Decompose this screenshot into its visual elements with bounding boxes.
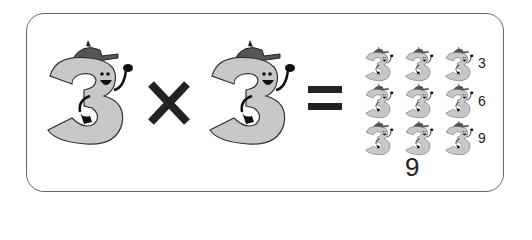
three-character-icon <box>442 46 478 82</box>
three-character-icon <box>362 46 398 82</box>
row-label: 9 <box>478 130 486 146</box>
row-label: 3 <box>478 55 486 71</box>
three-character-icon <box>402 120 438 156</box>
three-character-icon <box>442 83 478 119</box>
three-character-icon <box>402 83 438 119</box>
three-character-icon <box>442 120 478 156</box>
three-character-icon <box>362 120 398 156</box>
equals-icon <box>308 84 342 112</box>
three-character-icon <box>42 38 142 148</box>
product-total: 9 <box>405 152 419 183</box>
times-icon <box>145 80 193 126</box>
row-label: 6 <box>478 93 486 109</box>
three-character-icon <box>362 83 398 119</box>
three-character-icon <box>402 46 438 82</box>
three-character-icon <box>204 38 304 148</box>
